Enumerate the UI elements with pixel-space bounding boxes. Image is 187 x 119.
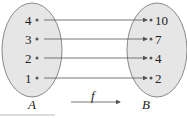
set-a-element: 3 [25,33,32,46]
set-a-label: A [28,98,36,111]
set-b-element: 10 [155,14,168,27]
set-b-element: 7 [155,33,162,46]
function-label: f [91,89,95,102]
set-b-element: 4 [155,52,162,65]
set-b-element: 2 [155,72,162,85]
set-a-element: 1 [25,72,32,85]
set-a-element: 2 [25,52,32,65]
set-b-label: B [142,98,150,111]
set-a-ellipse [2,3,62,97]
set-a-element: 4 [25,14,32,27]
